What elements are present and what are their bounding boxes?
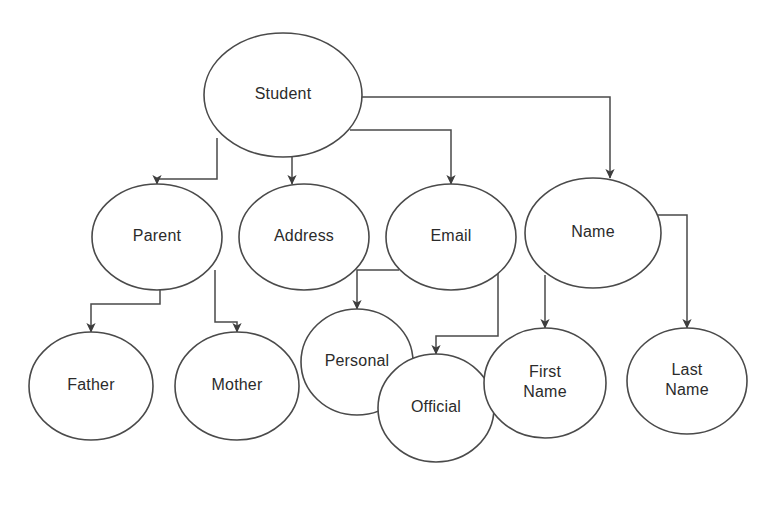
node-address[interactable]: Address: [239, 184, 369, 290]
node-name[interactable]: Name: [525, 178, 661, 288]
node-label-address: Address: [274, 227, 334, 244]
node-label-firstname: First: [529, 363, 561, 380]
node-label-father: Father: [67, 376, 115, 393]
node-label-email: Email: [430, 227, 471, 244]
node-label-official: Official: [411, 398, 461, 415]
entity-tree-diagram: StudentParentAddressEmailNameFatherMothe…: [0, 0, 768, 517]
edge-student-to-name: [358, 97, 610, 178]
node-mother[interactable]: Mother: [175, 332, 299, 440]
edge-email-to-personal: [357, 270, 399, 309]
node-label-lastname: Name: [665, 381, 708, 398]
node-father[interactable]: Father: [29, 332, 153, 440]
node-lastname[interactable]: LastName: [627, 328, 747, 434]
diagram-canvas: StudentParentAddressEmailNameFatherMothe…: [0, 0, 768, 517]
node-label-student: Student: [255, 85, 312, 102]
edge-parent-to-mother: [215, 270, 237, 332]
node-official[interactable]: Official: [378, 354, 494, 462]
node-parent[interactable]: Parent: [92, 184, 222, 290]
node-label-firstname: Name: [523, 383, 566, 400]
node-label-parent: Parent: [133, 227, 182, 244]
node-label-mother: Mother: [212, 376, 263, 393]
node-label-name: Name: [571, 223, 614, 240]
node-label-personal: Personal: [325, 352, 390, 369]
node-firstname[interactable]: FirstName: [484, 328, 606, 438]
edge-student-to-email: [350, 130, 451, 184]
node-email[interactable]: Email: [386, 184, 516, 290]
node-label-lastname: Last: [671, 361, 702, 378]
edge-student-to-parent: [157, 138, 217, 184]
node-student[interactable]: Student: [204, 33, 362, 157]
